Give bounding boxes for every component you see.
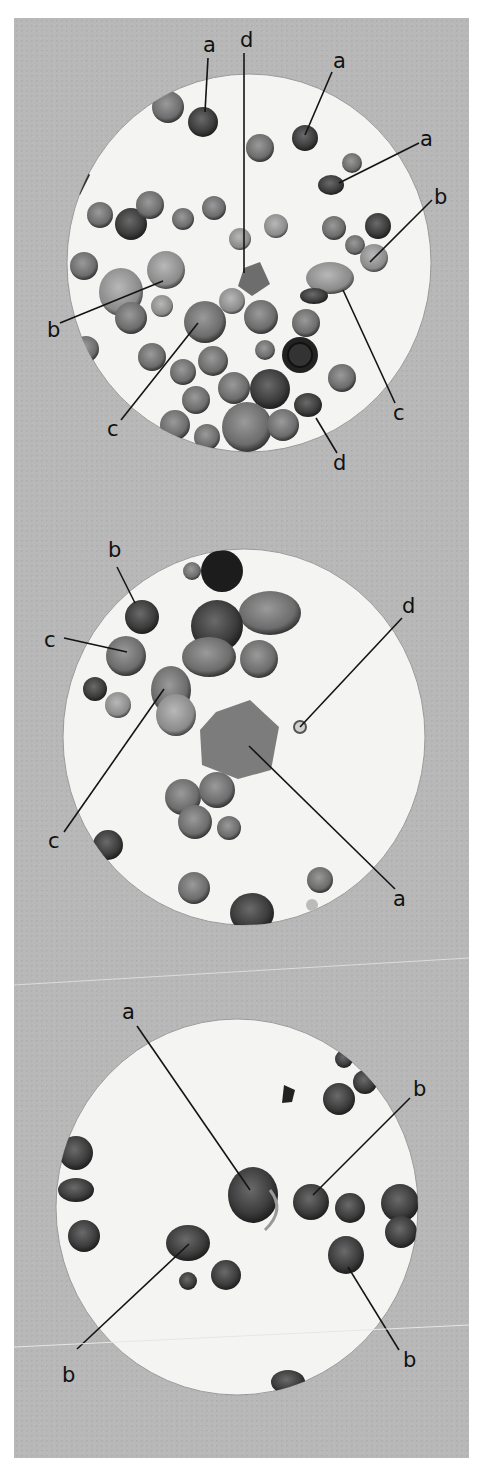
label-letter: d xyxy=(240,28,253,52)
micrograph-panel-1 xyxy=(67,74,431,452)
label-letter: a xyxy=(393,887,406,911)
label-letter: c xyxy=(393,401,405,425)
label-b-pointer: b xyxy=(108,538,135,603)
micrograph-figure: adaabbccdbcdcaabbb xyxy=(0,0,503,1473)
label-letter: b xyxy=(413,1077,426,1101)
label-letter: b xyxy=(434,185,447,209)
label-letter: d xyxy=(402,594,415,618)
label-letter: b xyxy=(47,318,60,342)
micrograph-panel-3 xyxy=(56,1019,419,1395)
micrograph-panel-2 xyxy=(63,549,425,933)
label-letter: c xyxy=(48,829,60,853)
label-letter: b xyxy=(403,1348,416,1372)
label-letter: a xyxy=(333,49,346,73)
label-letter: a xyxy=(420,127,433,151)
label-letter: a xyxy=(122,1000,135,1024)
label-letter: c xyxy=(107,417,119,441)
label-letter: b xyxy=(108,538,121,562)
label-letter: a xyxy=(203,33,216,57)
print-scratch xyxy=(14,958,469,985)
label-letter: b xyxy=(62,1363,75,1387)
label-letter: d xyxy=(333,451,346,475)
label-letter: c xyxy=(44,628,56,652)
